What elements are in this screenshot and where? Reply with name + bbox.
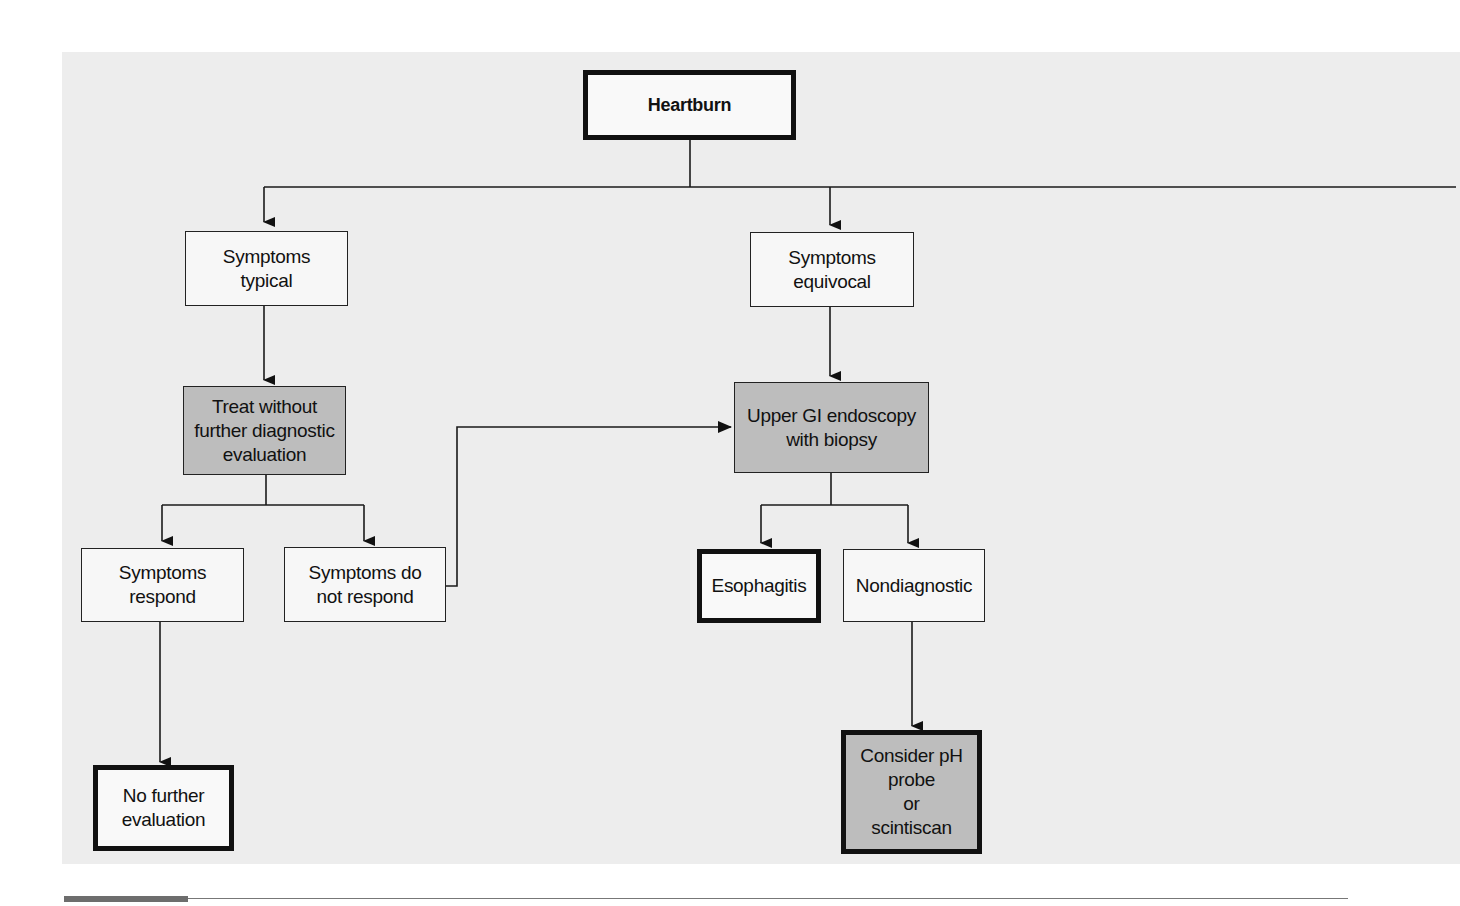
node-esophagitis: Esophagitis	[697, 549, 821, 623]
node-treat-without-evaluation: Treat without further diagnostic evaluat…	[183, 386, 346, 475]
node-symptoms-equivocal: Symptoms equivocal	[750, 232, 914, 307]
node-no-further-evaluation: No further evaluation	[93, 765, 234, 851]
node-heartburn: Heartburn	[583, 70, 796, 140]
node-upper-gi-endoscopy: Upper GI endoscopy with biopsy	[734, 382, 929, 473]
node-symptoms-typical: Symptoms typical	[185, 231, 348, 306]
node-consider-ph-probe-or-scintiscan: Consider pH probe or scintiscan	[841, 730, 982, 854]
node-symptoms-respond: Symptoms respond	[81, 548, 244, 622]
node-symptoms-do-not-respond: Symptoms do not respond	[284, 547, 446, 622]
node-nondiagnostic: Nondiagnostic	[843, 549, 985, 622]
